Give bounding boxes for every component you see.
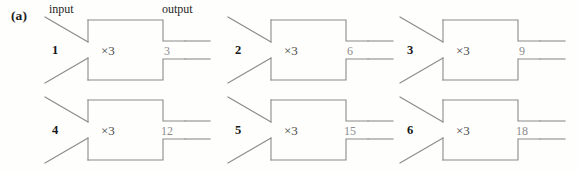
machine-diagram <box>390 94 575 166</box>
box-bottom-and-output-lower <box>443 139 540 160</box>
funnel-upper-line <box>45 17 88 42</box>
machine-output-value: 15 <box>344 125 356 137</box>
funnel-lower-line <box>228 138 271 163</box>
function-machine-6: 6 ×3 18 <box>390 94 575 166</box>
panel-label: (a) <box>11 8 27 24</box>
function-machine-1: 1 ×3 3 <box>35 14 220 86</box>
box-top-and-output-upper <box>443 100 540 121</box>
function-machine-5: 5 ×3 15 <box>218 94 403 166</box>
machine-output-value: 12 <box>161 125 173 137</box>
funnel-upper-line <box>45 97 88 122</box>
box-top-and-output-upper <box>271 100 368 121</box>
machine-operation-label: ×3 <box>284 44 298 57</box>
box-top-and-output-upper <box>88 20 185 41</box>
machine-diagram <box>218 14 403 86</box>
function-machine-4: 4 ×3 12 <box>35 94 220 166</box>
box-bottom-and-output-lower <box>88 59 185 80</box>
machine-input-value: 1 <box>52 44 58 57</box>
funnel-upper-line <box>400 17 443 42</box>
funnel-lower-line <box>228 58 271 83</box>
function-machine-3: 3 ×3 9 <box>390 14 575 86</box>
machine-operation-label: ×3 <box>456 44 470 57</box>
machine-operation-label: ×3 <box>101 44 115 57</box>
machine-input-value: 4 <box>52 124 58 137</box>
machine-diagram <box>390 14 575 86</box>
box-top-and-output-upper <box>443 20 540 41</box>
machine-output-value: 18 <box>516 125 528 137</box>
machine-diagram <box>218 94 403 166</box>
machine-operation-label: ×3 <box>101 124 115 137</box>
funnel-lower-line <box>400 58 443 83</box>
funnel-lower-line <box>45 58 88 83</box>
box-bottom-and-output-lower <box>271 59 368 80</box>
machine-diagram <box>35 94 220 166</box>
machine-operation-label: ×3 <box>456 124 470 137</box>
box-top-and-output-upper <box>88 100 185 121</box>
machine-input-value: 5 <box>235 124 241 137</box>
box-bottom-and-output-lower <box>271 139 368 160</box>
funnel-upper-line <box>400 97 443 122</box>
funnel-lower-line <box>400 138 443 163</box>
funnel-lower-line <box>45 138 88 163</box>
funnel-upper-line <box>228 17 271 42</box>
function-machine-2: 2 ×3 6 <box>218 14 403 86</box>
funnel-upper-line <box>228 97 271 122</box>
machine-diagram <box>35 14 220 86</box>
box-top-and-output-upper <box>271 20 368 41</box>
machine-operation-label: ×3 <box>284 124 298 137</box>
machine-input-value: 3 <box>407 44 413 57</box>
figure-panel: (a) input output 1 ×3 3 <box>0 0 578 171</box>
box-bottom-and-output-lower <box>88 139 185 160</box>
box-bottom-and-output-lower <box>443 59 540 80</box>
machine-output-value: 3 <box>164 45 170 57</box>
machine-input-value: 6 <box>407 124 413 137</box>
machine-output-value: 9 <box>519 45 525 57</box>
machine-input-value: 2 <box>235 44 241 57</box>
machine-output-value: 6 <box>347 45 353 57</box>
